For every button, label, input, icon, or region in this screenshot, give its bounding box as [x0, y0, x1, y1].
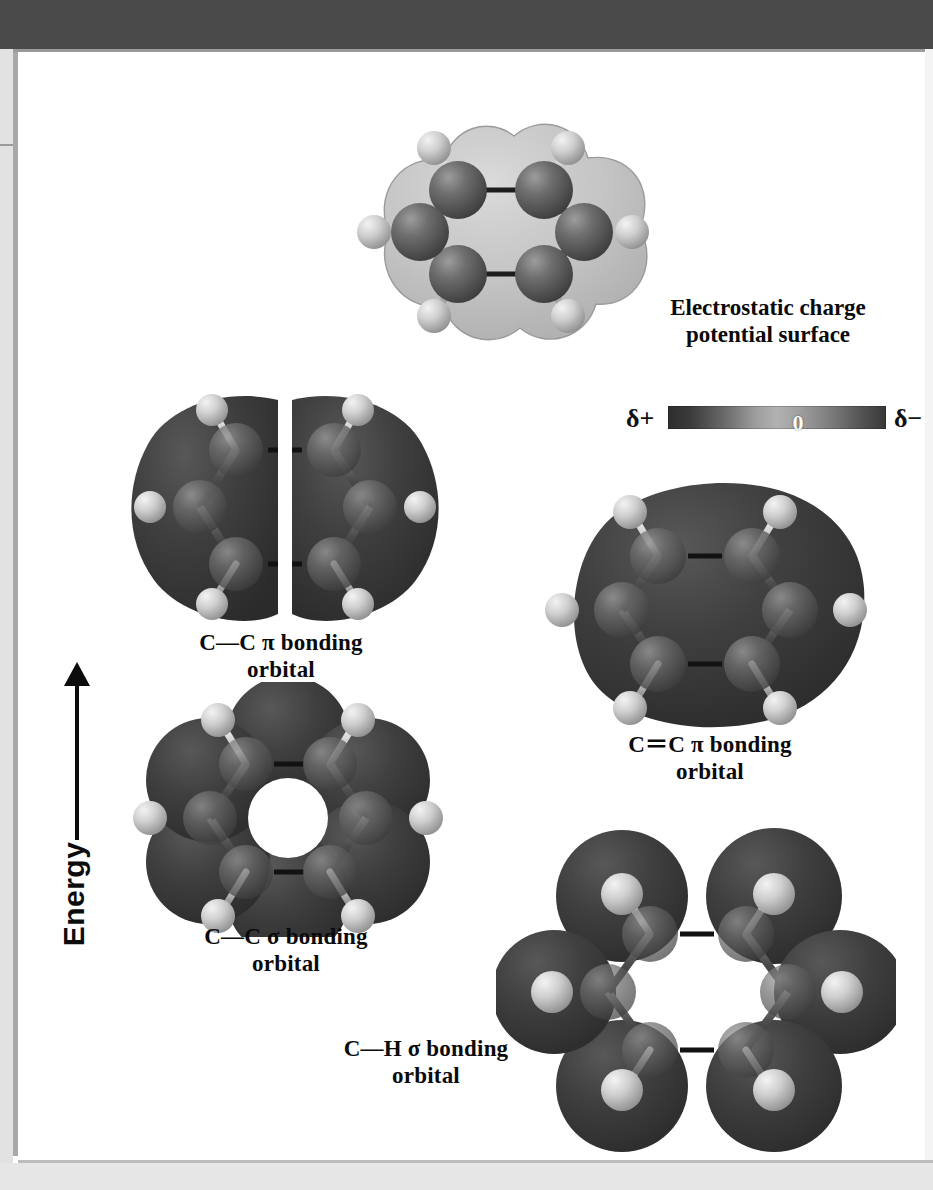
figure-page: Electrostatic charge potential surface δ…	[0, 0, 933, 1190]
caption-cc-pi-bonding-orbital: C—C π bonding orbital	[116, 630, 446, 684]
sigma-central-node	[248, 778, 328, 858]
figure-cc-sigma-bonding-orbital	[118, 682, 458, 937]
margin-rule	[0, 144, 13, 146]
figure-canvas: Electrostatic charge potential surface δ…	[18, 52, 925, 1160]
legend-title-line1: Electrostatic charge	[608, 294, 928, 321]
pi-nodal-plane	[278, 382, 292, 632]
content-right-edge	[925, 49, 933, 1163]
caption-line1: C＝C π bonding	[530, 732, 890, 759]
legend-title-line2: potential surface	[608, 321, 928, 348]
double-bond-marks	[680, 934, 714, 1050]
caption-line2: orbital	[530, 759, 890, 786]
figure-cc-pi-bonding-orbital	[118, 382, 448, 632]
caption-line1: C—C σ bonding	[116, 924, 456, 951]
scale-delta-minus-label: δ−	[894, 404, 922, 434]
page-bottom-band	[0, 1163, 933, 1190]
caption-cc-double-pi-bonding-orbital: C＝C π bonding orbital	[530, 732, 890, 786]
caption-line2: orbital	[116, 951, 456, 978]
caption-ch-sigma-bonding-orbital: C—H σ bonding orbital	[276, 1036, 576, 1090]
page-header-bar	[0, 0, 933, 49]
caption-line2: orbital	[116, 657, 446, 684]
figure-ch-sigma-bonding-orbital	[496, 814, 896, 1154]
caption-line2: orbital	[276, 1063, 576, 1090]
left-margin-strip	[0, 49, 13, 1190]
scale-gradient-bar: 0	[668, 406, 886, 429]
scale-delta-plus-label: δ+	[626, 404, 654, 434]
legend-title: Electrostatic charge potential surface	[608, 294, 928, 348]
caption-line1: C—C π bonding	[116, 630, 446, 657]
potential-scale: δ+ 0 δ−	[626, 400, 926, 436]
energy-axis: Energy	[46, 662, 106, 992]
scale-zero-label: 0	[786, 410, 810, 436]
energy-axis-label: Energy	[57, 809, 91, 979]
caption-cc-sigma-bonding-orbital: C—C σ bonding orbital	[116, 924, 456, 978]
figure-cc-double-pi-bonding-orbital	[530, 470, 890, 740]
caption-line1: C—H σ bonding	[276, 1036, 576, 1063]
